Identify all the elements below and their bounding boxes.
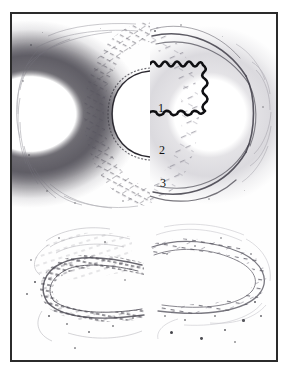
tissue-light-media: 1 2 3 xyxy=(150,14,276,214)
label-2: 2 xyxy=(159,144,165,156)
label-1: 1 xyxy=(158,102,164,114)
panel-bottom-left xyxy=(12,219,150,360)
tissue-dark-media xyxy=(12,14,150,214)
nuclei-speckles-dark xyxy=(12,14,150,214)
panel-top-right: 1 2 3 xyxy=(150,14,276,214)
nuclei-speckles-bottom-right xyxy=(150,219,276,360)
panel-bottom-right xyxy=(150,219,276,360)
panel-top-left xyxy=(12,14,150,214)
nuclei-speckles-bottom-left xyxy=(12,219,150,360)
figure-frame: 1 2 3 xyxy=(10,12,278,362)
label-3: 3 xyxy=(160,177,166,189)
nuclei-speckles-light xyxy=(150,14,276,214)
figure-canvas: 1 2 3 xyxy=(12,14,276,360)
